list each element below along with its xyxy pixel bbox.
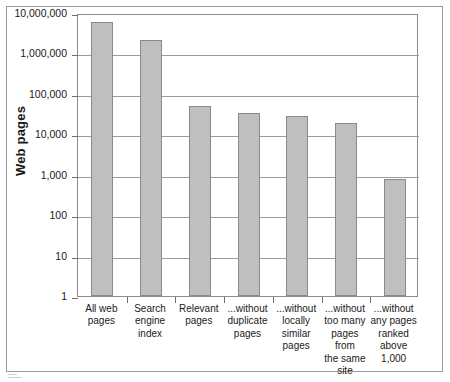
gridline xyxy=(78,96,419,97)
x-axis-category-label: All web pages xyxy=(77,303,126,328)
x-axis-tick-mark xyxy=(273,297,274,303)
bar xyxy=(91,22,113,296)
bar xyxy=(335,123,357,296)
x-axis-tick-mark xyxy=(127,297,128,303)
x-axis-category-label: ...without duplicate pages xyxy=(223,303,272,340)
figure-container: Web pages 10,000,0001,000,000100,00010,0… xyxy=(0,0,450,382)
x-axis-tick-mark xyxy=(175,297,176,303)
y-axis-tick-mark xyxy=(72,55,78,56)
y-axis-tick-mark xyxy=(72,217,78,218)
scan-artifact xyxy=(8,377,22,378)
bar xyxy=(140,40,162,296)
x-axis-tick-mark xyxy=(224,297,225,303)
x-axis-tick-mark xyxy=(322,297,323,303)
y-axis-tick-label: 10 xyxy=(0,251,67,262)
plot-area xyxy=(77,14,418,297)
x-axis-category-label: ...without too many pages from the same … xyxy=(321,303,370,377)
bar xyxy=(384,179,406,296)
y-axis-tick-mark xyxy=(72,258,78,259)
bar xyxy=(189,106,211,296)
y-axis-tick-mark xyxy=(72,177,78,178)
y-axis-tick-label: 1 xyxy=(0,291,67,302)
y-axis-tick-label: 1,000 xyxy=(0,170,67,181)
y-axis-tick-label: 100,000 xyxy=(0,89,67,100)
y-axis-tick-mark xyxy=(72,136,78,137)
bar xyxy=(238,113,260,296)
x-axis-category-label: ...without any pages ranked above 1,000 xyxy=(369,303,418,365)
x-axis-tick-mark xyxy=(370,297,371,303)
bar xyxy=(286,116,308,296)
y-axis-tick-label: 1,000,000 xyxy=(0,48,67,59)
y-axis-tick-mark xyxy=(72,96,78,97)
y-axis-tick-label: 10,000 xyxy=(0,129,67,140)
y-axis-tick-mark xyxy=(72,15,78,16)
y-axis-tick-label: 10,000,000 xyxy=(0,8,67,19)
x-axis-category-label: Relevant pages xyxy=(174,303,223,328)
scan-artifact xyxy=(8,374,17,375)
y-axis-tick-label: 100 xyxy=(0,210,67,221)
gridline xyxy=(78,55,419,56)
x-axis-category-label: Search engine index xyxy=(126,303,175,340)
y-axis-tick-mark xyxy=(72,298,78,299)
x-axis-category-label: ...without locally similar pages xyxy=(272,303,321,353)
